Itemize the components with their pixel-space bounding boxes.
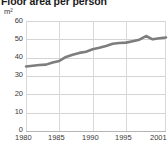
y-tick-label: 10 (15, 108, 23, 116)
y-tick-label: 30 (15, 71, 23, 79)
x-tick-label: 1995 (115, 134, 132, 142)
gridline-0 (26, 131, 166, 132)
x-tick-label: 1990 (82, 134, 99, 142)
y-tick-label: 50 (15, 35, 23, 43)
y-axis-tick-labels: 60 50 40 30 20 10 0 (0, 0, 23, 148)
x-tick-label: 1980 (15, 134, 32, 142)
x-axis-tick-labels: 1980 1985 1990 1995 2001 (0, 134, 168, 146)
x-tick-label: 1985 (48, 134, 65, 142)
x-tick-label: 2001 (150, 134, 167, 142)
y-tick-label: 60 (15, 17, 23, 25)
plot-area (26, 21, 166, 131)
series-line-floor-area (26, 36, 166, 66)
y-tick-label: 20 (15, 90, 23, 98)
chart-figure: Floor area per person m² 60 50 40 30 20 … (0, 0, 168, 148)
data-line-chart (26, 21, 166, 131)
y-tick-label: 40 (15, 53, 23, 61)
